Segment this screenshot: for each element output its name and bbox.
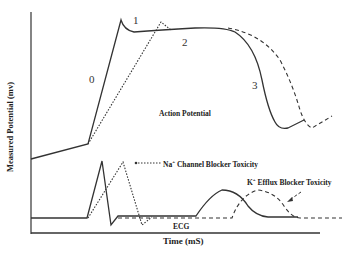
phase-1-label: 1 (133, 14, 139, 26)
normal-action-potential-curve (31, 20, 304, 159)
k-blocker-leader-line (291, 192, 301, 199)
k-blocker-suffix: Efflux Blocker Toxicity (256, 178, 332, 187)
ecg-label: ECG (173, 222, 189, 231)
na-blocker-prefix: Na (163, 160, 172, 169)
na-blocker-action-potential-curve (88, 22, 171, 144)
na-blocker-label: Na+ Channel Blocker Toxicity (163, 159, 258, 169)
action-potential-label: Action Potential (159, 109, 211, 118)
k-blocker-arrowhead-icon (287, 197, 293, 202)
phase-3-label: 3 (252, 79, 258, 91)
y-axis-label: Measured Potential (mv) (5, 67, 15, 187)
phase-0-label: 0 (89, 73, 95, 85)
x-axis-label: Time (mS) (163, 236, 204, 246)
phase-2-label: 2 (182, 36, 188, 48)
na-blocker-arrowhead-icon (135, 162, 138, 165)
action-potential-ecg-diagram (0, 0, 354, 256)
k-blocker-label: K+ Efflux Blocker Toxicity (247, 177, 332, 187)
na-blocker-suffix: Channel Blocker Toxicity (175, 160, 258, 169)
k-blocker-action-potential-curve (228, 28, 332, 128)
k-blocker-ecg-curve (118, 190, 342, 218)
normal-ecg-curve (31, 161, 298, 225)
